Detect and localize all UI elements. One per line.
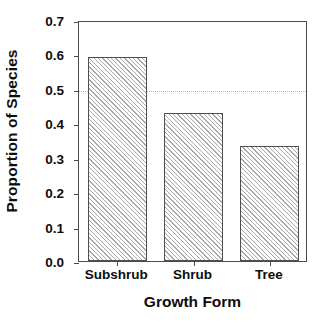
- bar-series: [79, 22, 306, 261]
- y-axis-tick-mark: [74, 56, 79, 57]
- bar: [240, 146, 299, 261]
- bar-chart-figure: Proportion of Species 0.00.10.20.30.40.5…: [0, 0, 325, 327]
- y-axis-tick-label: 0.4: [45, 117, 64, 132]
- y-axis-title: Proportion of Species: [0, 0, 24, 262]
- y-axis-tick-mark: [74, 22, 79, 23]
- y-axis-tick-label: 0.7: [45, 14, 64, 29]
- bar: [88, 57, 147, 261]
- x-axis-tick-label: Subshrub: [85, 267, 148, 282]
- y-axis-tick-mark: [74, 194, 79, 195]
- y-axis-title-text: Proportion of Species: [3, 49, 21, 212]
- bar: [164, 113, 223, 261]
- x-axis-tick-mark: [270, 261, 271, 266]
- y-axis-tick-mark: [74, 125, 79, 126]
- x-axis-tick-mark: [117, 261, 118, 266]
- y-axis-tick-mark: [74, 263, 79, 264]
- y-axis-tick-labels: 0.00.10.20.30.40.50.60.7: [26, 0, 70, 327]
- y-axis-tick-label: 0.0: [45, 255, 64, 270]
- y-axis-tick-label: 0.2: [45, 186, 64, 201]
- x-axis-tick-mark: [194, 261, 195, 266]
- x-axis-tick-labels: SubshrubShrubTree: [78, 267, 307, 289]
- y-axis-tick-label: 0.3: [45, 151, 64, 166]
- x-axis-tick-label: Shrub: [173, 267, 212, 282]
- plot-area: [78, 21, 307, 262]
- x-axis-title: Growth Form: [78, 293, 307, 311]
- y-axis-tick-label: 0.6: [45, 48, 64, 63]
- y-axis-tick-mark: [74, 160, 79, 161]
- y-axis-tick-label: 0.1: [45, 220, 64, 235]
- y-axis-tick-mark: [74, 229, 79, 230]
- x-axis-tick-label: Tree: [255, 267, 283, 282]
- y-axis-tick-label: 0.5: [45, 82, 64, 97]
- y-axis-tick-mark: [74, 91, 79, 92]
